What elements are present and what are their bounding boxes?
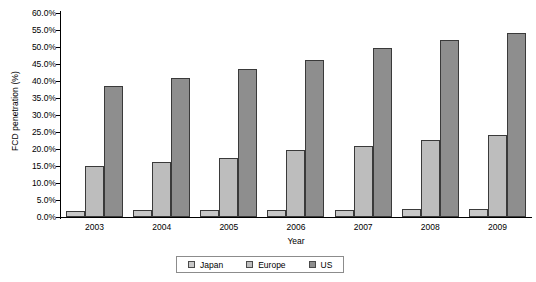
legend-label: US [321, 260, 333, 270]
y-axis-tick-label: 10.0% [14, 178, 56, 188]
y-axis-tick-mark [56, 47, 60, 48]
bar-europe-2005[interactable] [219, 158, 238, 218]
legend-item-europe[interactable]: Europe [246, 260, 285, 270]
x-axis-tick-label: 2003 [61, 222, 128, 232]
legend-label: Europe [258, 260, 285, 270]
bar-groups [61, 13, 531, 217]
y-axis-tick-mark [56, 183, 60, 184]
bar-japan-2006[interactable] [267, 210, 286, 217]
bar-europe-2008[interactable] [421, 140, 440, 217]
bar-group [61, 13, 128, 217]
bar-us-2004[interactable] [171, 78, 190, 217]
y-axis-tick-label: 15.0% [14, 161, 56, 171]
x-axis-title: Year [61, 236, 531, 246]
y-axis-tick-mark [56, 149, 60, 150]
bar-group [330, 13, 397, 217]
fcd-penetration-bar-chart: FCD penetration (%) 60.0%55.0%50.0%45.0%… [0, 0, 536, 282]
y-axis-tick-mark [56, 132, 60, 133]
y-axis-tick-label: 0.0% [14, 212, 56, 222]
bar-us-2005[interactable] [238, 69, 257, 217]
legend-item-us[interactable]: US [309, 260, 333, 270]
y-axis-tick-mark [56, 81, 60, 82]
bar-us-2007[interactable] [373, 48, 392, 217]
y-axis-tick-mark [56, 13, 60, 14]
y-axis-tick-label: 55.0% [14, 25, 56, 35]
bar-us-2008[interactable] [440, 40, 459, 217]
y-axis-tick-label: 50.0% [14, 42, 56, 52]
x-axis-tick-label: 2005 [195, 222, 262, 232]
y-axis-tick-labels: 60.0%55.0%50.0%45.0%40.0%35.0%30.0%25.0%… [14, 0, 56, 282]
bar-japan-2007[interactable] [335, 210, 354, 217]
x-axis-tick-label: 2009 [464, 222, 531, 232]
bar-europe-2009[interactable] [488, 135, 507, 217]
x-axis-tick-label: 2008 [397, 222, 464, 232]
bar-europe-2004[interactable] [152, 162, 171, 217]
legend-swatch-icon [188, 261, 195, 268]
y-axis-tick-label: 45.0% [14, 59, 56, 69]
bar-group [128, 13, 195, 217]
x-axis-line [59, 217, 532, 218]
bar-us-2009[interactable] [507, 33, 526, 217]
y-axis-tick-label: 60.0% [14, 8, 56, 18]
bar-europe-2003[interactable] [85, 166, 104, 217]
bar-group [464, 13, 531, 217]
x-axis-tick-label: 2004 [128, 222, 195, 232]
bar-group [262, 13, 329, 217]
bar-japan-2009[interactable] [469, 209, 488, 218]
x-axis-tick-label: 2007 [330, 222, 397, 232]
y-axis-tick-mark [56, 217, 60, 218]
bar-group [397, 13, 464, 217]
legend-swatch-icon [309, 261, 316, 268]
bar-us-2006[interactable] [305, 60, 324, 217]
y-axis-tick-label: 35.0% [14, 93, 56, 103]
bar-japan-2008[interactable] [402, 209, 421, 217]
bar-europe-2006[interactable] [286, 150, 305, 217]
bar-europe-2007[interactable] [354, 146, 373, 217]
x-axis-tick-label: 2006 [262, 222, 329, 232]
legend-label: Japan [200, 260, 223, 270]
x-axis-tick-labels: 2003200420052006200720082009 [61, 222, 531, 232]
y-axis-tick-mark [56, 200, 60, 201]
y-axis-tick-label: 40.0% [14, 76, 56, 86]
legend-item-japan[interactable]: Japan [188, 260, 223, 270]
bar-japan-2003[interactable] [66, 211, 85, 217]
legend-swatch-icon [246, 261, 253, 268]
y-axis-tick-mark [56, 98, 60, 99]
chart-legend: JapanEuropeUS [176, 256, 344, 273]
y-axis-tick-label: 25.0% [14, 127, 56, 137]
y-axis-tick-label: 30.0% [14, 110, 56, 120]
y-axis-tick-label: 20.0% [14, 144, 56, 154]
y-axis-tick-label: 5.0% [14, 195, 56, 205]
y-axis-tick-mark [56, 115, 60, 116]
y-axis-tick-mark [56, 64, 60, 65]
y-axis-tick-mark [56, 30, 60, 31]
bar-japan-2005[interactable] [200, 210, 219, 217]
y-axis-tick-mark [56, 166, 60, 167]
bar-us-2003[interactable] [104, 86, 123, 217]
bar-group [195, 13, 262, 217]
bar-japan-2004[interactable] [133, 210, 152, 217]
